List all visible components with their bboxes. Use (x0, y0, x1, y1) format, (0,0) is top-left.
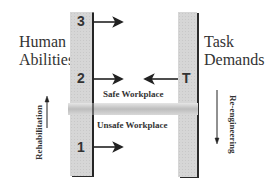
task-demand-arrowhead-icon (145, 75, 153, 83)
re-engineering-label: Re-engineering (228, 95, 238, 154)
level-2-arrowhead-icon (114, 75, 122, 83)
rehabilitation-label: Rehabilitation (34, 105, 44, 160)
re-engineering-arrowhead-icon (215, 138, 219, 144)
level-1-arrowhead-icon (114, 143, 122, 151)
rehabilitation-arrowhead-icon (45, 96, 49, 102)
level-3-arrowhead-icon (114, 18, 122, 26)
